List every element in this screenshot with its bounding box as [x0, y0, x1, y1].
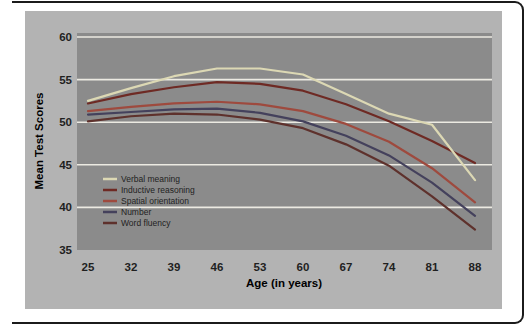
y-tick-50: 50	[59, 116, 72, 128]
x-tick-46: 46	[211, 261, 224, 273]
y-tick-55: 55	[59, 74, 72, 86]
x-tick-88: 88	[469, 261, 482, 273]
legend-label-verbal-meaning: Verbal meaning	[121, 174, 180, 184]
x-tick-39: 39	[168, 261, 181, 273]
x-axis-tick-labels: 25323946536067748188	[82, 261, 482, 273]
legend-label-inductive-reasoning: Inductive reasoning	[121, 185, 195, 195]
x-tick-53: 53	[254, 261, 267, 273]
x-axis-title: Age (in years)	[246, 277, 322, 289]
y-axis-tick-labels: 605550454035	[59, 31, 72, 256]
legend-label-number: Number	[121, 207, 151, 217]
legend-label-word-fluency: Word fluency	[121, 218, 171, 228]
y-tick-60: 60	[59, 31, 72, 43]
y-axis-title: Mean Test Scores	[33, 93, 45, 190]
line-chart: 605550454035 25323946536067748188 Verbal…	[25, 11, 502, 309]
figure: 605550454035 25323946536067748188 Verbal…	[25, 11, 502, 309]
x-tick-74: 74	[383, 261, 396, 273]
y-tick-35: 35	[59, 244, 72, 256]
x-tick-60: 60	[297, 261, 310, 273]
y-tick-40: 40	[59, 201, 72, 213]
legend-label-spatial-orientation: Spatial orientation	[121, 196, 189, 206]
page: 605550454035 25323946536067748188 Verbal…	[0, 0, 526, 326]
x-tick-67: 67	[340, 261, 353, 273]
x-tick-32: 32	[125, 261, 138, 273]
y-tick-45: 45	[59, 159, 72, 171]
x-tick-25: 25	[82, 261, 95, 273]
x-tick-81: 81	[426, 261, 439, 273]
